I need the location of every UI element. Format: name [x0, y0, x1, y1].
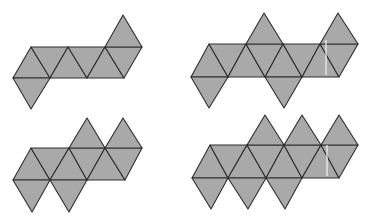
triangle-face — [266, 178, 302, 209]
icosahedron-nets-figure — [0, 0, 369, 223]
net-bottom-left — [13, 118, 142, 212]
triangle-face — [50, 180, 87, 212]
triangle-face — [321, 115, 358, 145]
triangle-face — [13, 78, 50, 109]
net-top-right — [191, 13, 358, 108]
nets-layer — [13, 13, 358, 212]
triangle-face — [105, 15, 142, 47]
net-top-left — [13, 15, 142, 109]
triangle-face — [265, 77, 302, 108]
triangle-face — [320, 13, 358, 44]
triangle-face — [191, 77, 228, 108]
triangle-face — [228, 178, 266, 209]
net-bottom-right — [192, 115, 358, 209]
triangle-face — [69, 118, 105, 148]
triangle-face — [192, 178, 228, 209]
triangle-face — [105, 118, 142, 148]
triangle-face — [246, 13, 283, 44]
triangle-face — [13, 180, 50, 212]
triangle-face — [247, 115, 284, 145]
triangle-face — [284, 115, 321, 145]
